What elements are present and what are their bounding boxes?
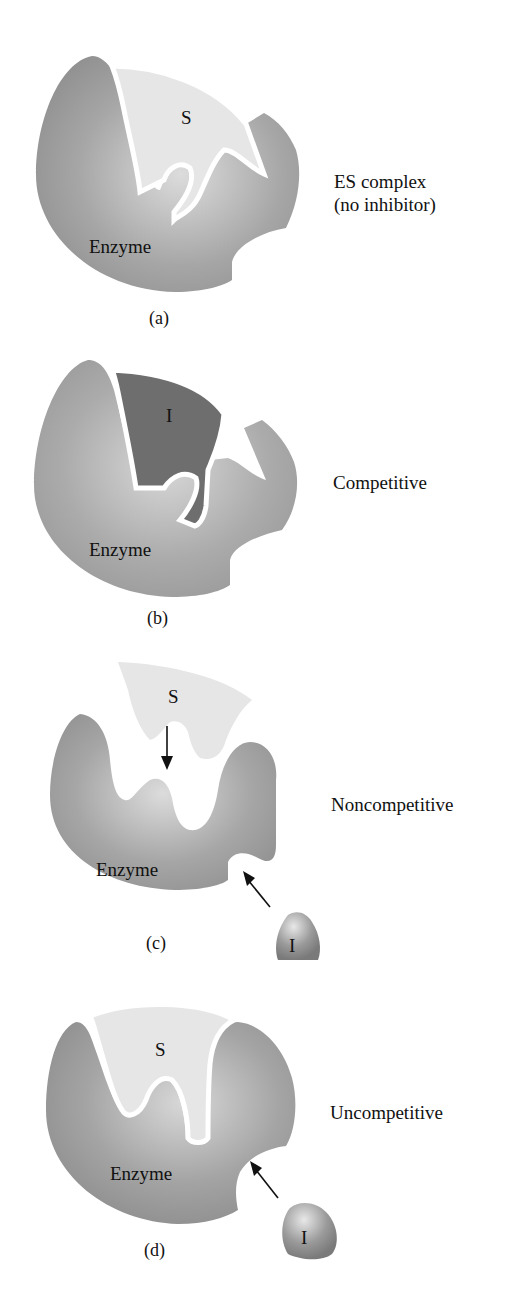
substrate-label: S	[168, 686, 179, 707]
panel-caption: (d)	[144, 1240, 165, 1261]
panel-a-es-complex: S Enzyme (a) ES complex (no inhibitor)	[0, 0, 514, 330]
enzyme-shape	[50, 714, 276, 890]
enzyme-label: Enzyme	[89, 539, 151, 560]
panel-c-noncompetitive: S Enzyme I (c) Noncompetitive	[0, 630, 514, 960]
enzyme-label: Enzyme	[96, 859, 158, 880]
substrate-label: S	[155, 1039, 166, 1060]
competitive-diagram: I Enzyme	[0, 330, 514, 630]
inhibitor-label: I	[289, 935, 295, 956]
panel-description: Noncompetitive	[331, 793, 453, 816]
es-complex-diagram: S Enzyme	[0, 0, 514, 330]
panel-caption: (a)	[149, 308, 169, 329]
substrate-arrow-icon	[161, 726, 173, 770]
uncompetitive-diagram: S Enzyme I	[0, 960, 514, 1307]
description-line-1: ES complex	[334, 170, 436, 193]
substrate-shape	[118, 662, 252, 759]
inhibitor-label: I	[301, 1227, 307, 1248]
inhibitor-shape	[282, 1203, 337, 1259]
inhibitor-arrow-icon	[250, 1161, 278, 1198]
inhibitor-shape	[276, 912, 320, 960]
panel-description: ES complex (no inhibitor)	[334, 170, 436, 216]
panel-description: Competitive	[333, 471, 427, 494]
panel-b-competitive: I Enzyme (b) Competitive	[0, 330, 514, 630]
substrate-label: S	[181, 107, 192, 128]
inhibitor-arrow-icon	[243, 871, 270, 907]
panel-caption: (b)	[147, 608, 168, 629]
inhibitor-label: I	[166, 405, 172, 426]
panel-d-uncompetitive: S Enzyme I (d) Uncompetitive	[0, 960, 514, 1307]
enzyme-label: Enzyme	[110, 1163, 172, 1184]
description-line-2: (no inhibitor)	[334, 193, 436, 216]
panel-description: Uncompetitive	[330, 1101, 443, 1124]
panel-caption: (c)	[146, 933, 166, 954]
enzyme-label: Enzyme	[89, 236, 151, 257]
